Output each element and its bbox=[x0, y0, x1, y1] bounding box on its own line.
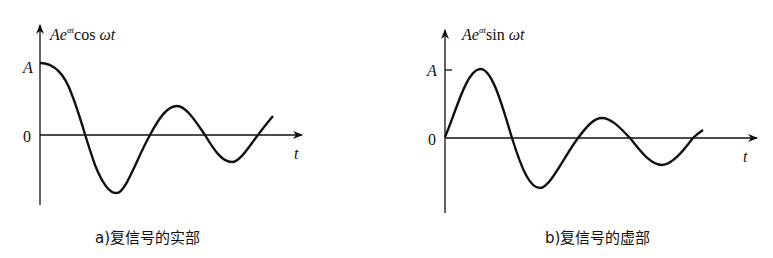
damped-sine-curve bbox=[445, 69, 703, 188]
y-tick-A: A bbox=[22, 59, 33, 76]
figure-canvas: Aeαtcos ωt A 0 t a)复信号的实部 Aeαtsin ωt A 0… bbox=[0, 0, 773, 258]
y-axis-label: Aeαtsin ωt bbox=[461, 25, 525, 43]
y-tick-zero: 0 bbox=[23, 128, 31, 145]
panel-real-part: Aeαtcos ωt A 0 t a)复信号的实部 bbox=[22, 25, 302, 247]
x-axis-label: t bbox=[294, 145, 299, 162]
y-axis-label: Aeαtcos ωt bbox=[49, 25, 116, 43]
caption-real-part: a)复信号的实部 bbox=[95, 229, 200, 247]
caption-imaginary-part: b)复信号的虚部 bbox=[545, 229, 650, 247]
x-axis-label: t bbox=[743, 148, 748, 165]
y-tick-zero: 0 bbox=[428, 131, 436, 148]
damped-cosine-curve bbox=[40, 63, 273, 193]
panel-imaginary-part: Aeαtsin ωt A 0 t b)复信号的虚部 bbox=[426, 25, 757, 247]
y-tick-A: A bbox=[426, 62, 437, 79]
